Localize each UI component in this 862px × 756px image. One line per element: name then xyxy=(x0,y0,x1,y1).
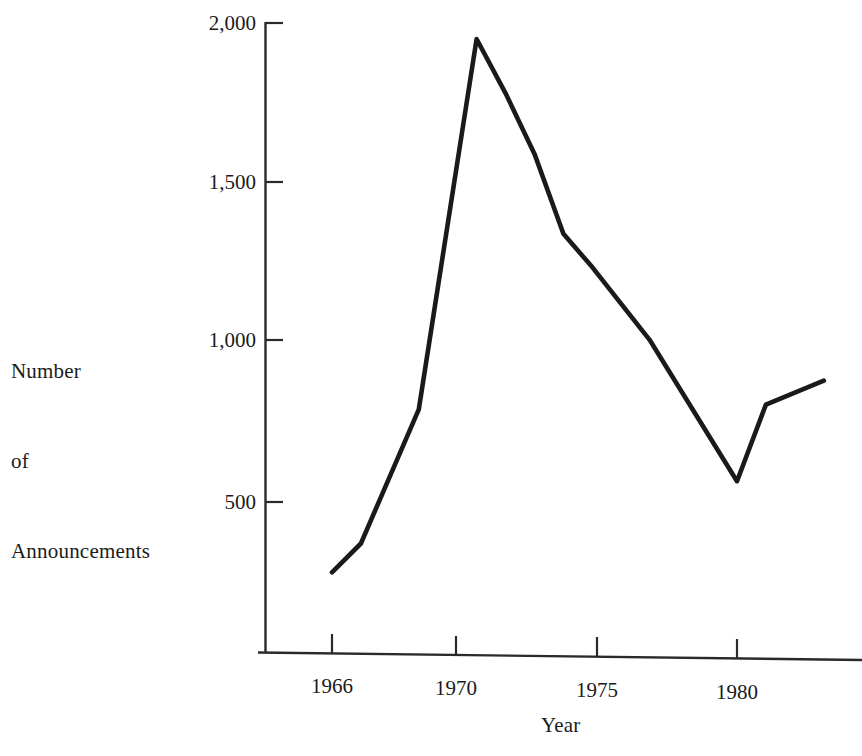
x-axis-title: Year xyxy=(541,710,581,740)
y-tick-label-500: 500 xyxy=(180,490,256,515)
y-tick-label-2000: 2,000 xyxy=(180,11,256,36)
y-axis-title-line-1: Number xyxy=(11,356,150,386)
x-tick-label-1970: 1970 xyxy=(416,676,496,701)
x-tick-label-1975: 1975 xyxy=(557,678,637,703)
y-axis-title-line-2: of xyxy=(11,446,150,476)
y-axis-title: Number of Announcements xyxy=(11,296,150,626)
line-chart-figure: 2,000 1,500 1,000 500 1966 1970 1975 198… xyxy=(0,0,862,756)
x-tick-label-1966: 1966 xyxy=(292,674,372,699)
x-tick-label-1980: 1980 xyxy=(697,680,777,705)
y-tick-label-1000: 1,000 xyxy=(180,328,256,353)
y-tick-label-1500: 1,500 xyxy=(180,170,256,195)
x-axis-spine xyxy=(258,653,862,661)
announcements-data-line xyxy=(332,39,824,572)
y-axis-tick-marks xyxy=(265,23,283,502)
y-axis-title-line-3: Announcements xyxy=(11,536,150,566)
